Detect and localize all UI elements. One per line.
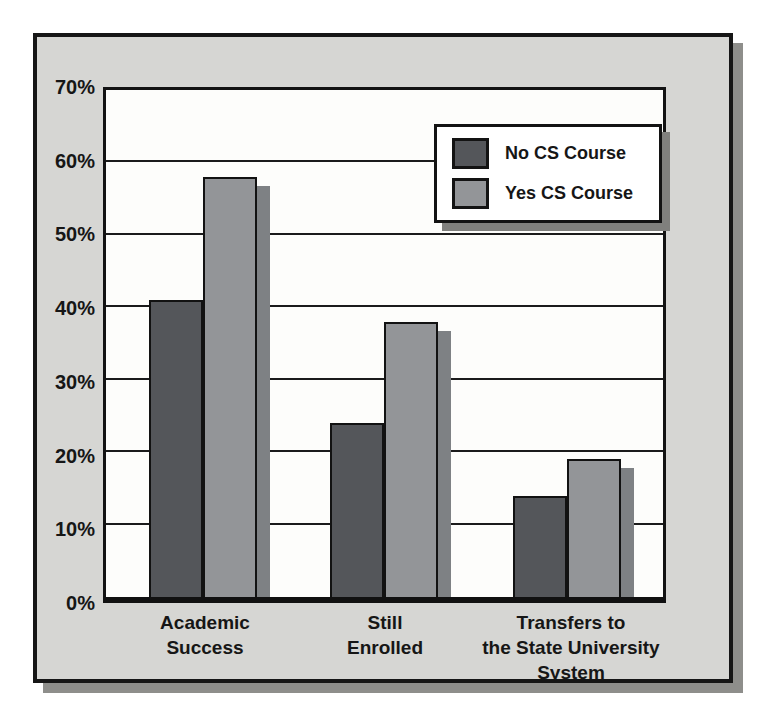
y-axis-tick-label: 40% — [37, 295, 95, 321]
legend: No CS Course Yes CS Course — [434, 124, 662, 223]
bar-drop-shadow — [621, 468, 634, 597]
bar-no-cs-course — [513, 496, 567, 597]
bar-yes-cs-course — [203, 177, 257, 597]
category-label-line: Transfers to — [431, 610, 711, 635]
bar-group — [330, 90, 438, 597]
y-axis-tick-label: 30% — [37, 369, 95, 395]
y-axis-tick-label: 20% — [37, 443, 95, 469]
category-label-line: the State University — [431, 635, 711, 660]
y-axis-tick-label: 70% — [37, 74, 95, 100]
bar-group — [149, 90, 257, 597]
legend-item-yes-cs-course: Yes CS Course — [452, 178, 651, 209]
bar-drop-shadow — [438, 331, 451, 597]
bar-no-cs-course — [330, 423, 384, 597]
y-axis-tick-label: 10% — [37, 516, 95, 542]
chart-frame: No CS Course Yes CS Course 0%10%20%30%40… — [33, 33, 733, 683]
bar-yes-cs-course — [567, 459, 621, 597]
bar-drop-shadow — [257, 186, 270, 597]
bar-no-cs-course — [149, 300, 203, 597]
plot-area: No CS Course Yes CS Course — [103, 87, 666, 603]
scanned-page: No CS Course Yes CS Course 0%10%20%30%40… — [0, 0, 758, 714]
y-axis-tick-label: 0% — [37, 590, 95, 616]
yes-cs-course-swatch — [452, 178, 489, 209]
category-label: Transfers tothe State UniversitySystem — [431, 610, 711, 685]
legend-item-no-cs-course: No CS Course — [452, 138, 651, 169]
bar-yes-cs-course — [384, 322, 438, 597]
no-cs-course-swatch — [452, 138, 489, 169]
y-axis-tick-label: 60% — [37, 148, 95, 174]
legend-label: No CS Course — [505, 143, 626, 164]
legend-label: Yes CS Course — [505, 183, 633, 204]
y-axis-tick-label: 50% — [37, 221, 95, 247]
category-label-line: System — [431, 660, 711, 685]
y-axis: 0%10%20%30%40%50%60%70% — [37, 87, 95, 603]
